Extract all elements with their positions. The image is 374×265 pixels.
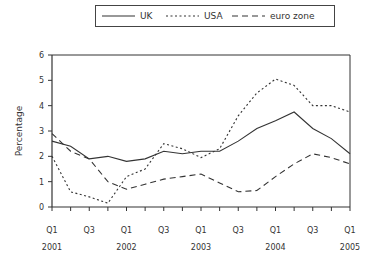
x-tick-label-quarter: Q3: [84, 226, 95, 235]
x-tick-label-quarter: Q1: [344, 226, 355, 235]
x-tick-label-quarter: Q1: [121, 226, 132, 235]
x-tick-label-year: 2005: [340, 243, 360, 252]
line-chart: 0123456Q12001Q3Q12002Q3Q12003Q3Q12004Q3Q…: [0, 0, 374, 265]
x-tick-label-quarter: Q3: [158, 226, 169, 235]
x-tick-label-quarter: Q1: [195, 226, 206, 235]
x-tick-label-quarter: Q1: [46, 226, 57, 235]
x-tick-label-year: 2001: [42, 243, 62, 252]
legend-label: USA: [204, 11, 223, 21]
y-tick-label: 5: [39, 76, 44, 85]
series-line-euro-zone: [52, 134, 350, 192]
y-tick-label: 2: [39, 152, 44, 161]
y-tick-label: 0: [39, 203, 44, 212]
y-tick-label: 1: [39, 178, 44, 187]
x-tick-label-quarter: Q3: [233, 226, 244, 235]
y-tick-label: 3: [39, 127, 44, 136]
series-line-uk: [52, 112, 350, 161]
y-tick-label: 4: [39, 102, 44, 111]
x-tick-label-quarter: Q3: [307, 226, 318, 235]
y-axis-label: Percentage: [14, 105, 24, 156]
x-tick-label-year: 2003: [191, 243, 211, 252]
x-tick-label-quarter: Q1: [270, 226, 281, 235]
legend-label: euro zone: [270, 11, 315, 21]
x-tick-label-year: 2002: [116, 243, 136, 252]
series-line-usa: [52, 79, 350, 203]
legend-label: UK: [140, 11, 154, 21]
y-tick-label: 6: [39, 51, 44, 60]
x-tick-label-year: 2004: [265, 243, 285, 252]
